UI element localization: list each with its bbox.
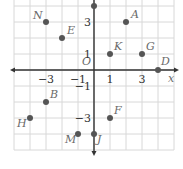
x-axis-right-arrow-icon [174,68,179,73]
point-label: D [160,55,170,68]
point-f [107,115,113,121]
y-tick-label: 1 [84,48,91,61]
point-label: J [95,133,102,146]
point-k [107,51,113,57]
x-tick-label: 3 [139,73,146,86]
point-label: G [146,40,155,53]
x-axis-label: x [168,72,175,85]
point-g [139,51,145,57]
point [91,3,97,9]
point-label: A [130,8,139,21]
coordinate-plane: xO −3−11331−1−3 NEAKGDBHFMJ [0,0,183,169]
point-b [43,99,49,105]
y-axis-down-arrow-icon [92,151,97,156]
point-label: H [16,117,27,130]
y-tick-label: −1 [75,80,91,93]
point-n [43,19,49,25]
point-label: N [32,9,43,22]
point-label: K [113,40,123,53]
point-label: M [64,133,77,146]
x-tick-label: −3 [38,73,54,86]
point-label: B [49,88,58,101]
point-h [27,115,33,121]
x-axis-left-arrow-icon [10,68,15,73]
y-tick-label: −3 [75,112,91,125]
point-a [123,19,129,25]
point-e [59,35,65,41]
x-tick-label: 1 [107,73,114,86]
point-label: F [113,104,122,117]
point-label: E [66,24,75,37]
y-tick-label: 3 [84,16,91,29]
